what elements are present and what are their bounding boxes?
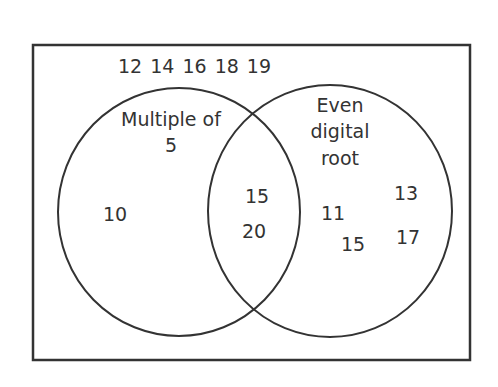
- set-b-only-value: 13: [394, 182, 418, 204]
- intersection-value: 15: [245, 185, 269, 207]
- set-a-label-line1: Multiple of: [108, 108, 234, 130]
- set-b-only-value: 15: [341, 233, 365, 255]
- set-a-only-value: 10: [103, 203, 127, 225]
- outside-numbers: 12 14 16 18 19: [118, 55, 271, 77]
- set-b-label-line3: root: [300, 147, 380, 169]
- set-b-label-line1: Even: [300, 94, 380, 116]
- set-b-only-value: 17: [396, 226, 420, 248]
- intersection-value: 20: [242, 220, 266, 242]
- set-a-label-line2: 5: [108, 134, 234, 156]
- set-b-label-line2: digital: [300, 120, 380, 142]
- set-b-only-value: 11: [321, 202, 345, 224]
